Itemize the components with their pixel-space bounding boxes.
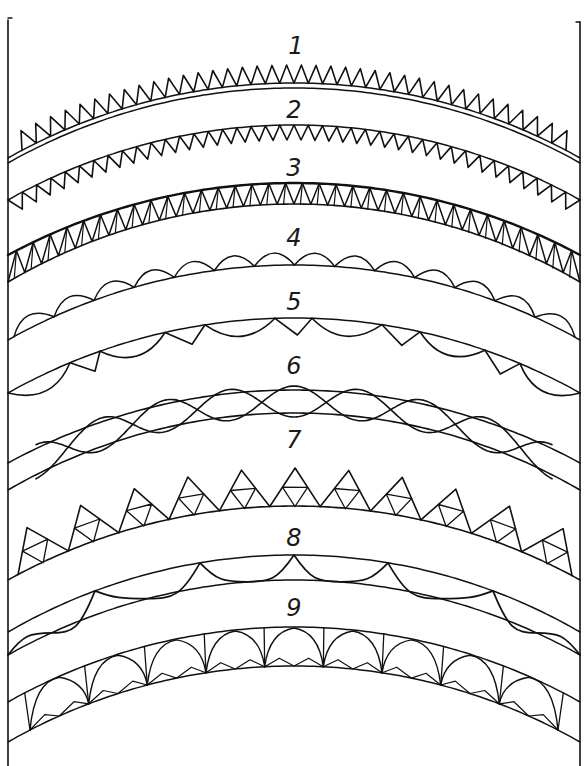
band-label-4: 4: [286, 226, 301, 250]
band-label-6: 6: [286, 354, 301, 378]
triangle: [18, 528, 68, 575]
frame-lines: [8, 18, 580, 766]
triangle: [371, 477, 421, 519]
scallop: [174, 261, 214, 277]
subdivision: [23, 539, 48, 563]
radial-line: [558, 693, 563, 730]
inner-zigzag: [265, 658, 324, 667]
triangle: [522, 529, 572, 576]
band-label-3: 3: [286, 156, 301, 180]
stroke: [8, 627, 580, 702]
subdivision: [438, 505, 463, 527]
band-label-5: 5: [286, 290, 301, 314]
subdivision: [75, 519, 100, 542]
scallop: [420, 332, 485, 357]
band-label-9: 9: [286, 596, 301, 620]
band-label-7: 7: [286, 428, 301, 452]
subdivision: [386, 494, 411, 515]
band-label-2: 2: [286, 98, 301, 122]
scallop: [100, 333, 165, 358]
triangle: [169, 477, 219, 519]
subdivision: [490, 520, 515, 543]
scallop: [375, 262, 415, 278]
subdivision: [127, 504, 152, 526]
subdivision: [179, 494, 204, 515]
triangle: [320, 470, 370, 511]
subdivision: [542, 540, 567, 564]
subdivision: [282, 487, 307, 506]
scallop: [520, 364, 580, 396]
band-9: [8, 627, 580, 742]
band-label-1: 1: [288, 34, 303, 58]
subdivision: [334, 489, 359, 509]
radial-line: [264, 628, 265, 667]
subdivision: [231, 488, 256, 508]
radial-line: [25, 693, 30, 730]
band-label-8: 8: [286, 526, 301, 550]
triangle: [220, 470, 270, 511]
scallop: [8, 363, 70, 396]
v-notch: [275, 318, 312, 335]
